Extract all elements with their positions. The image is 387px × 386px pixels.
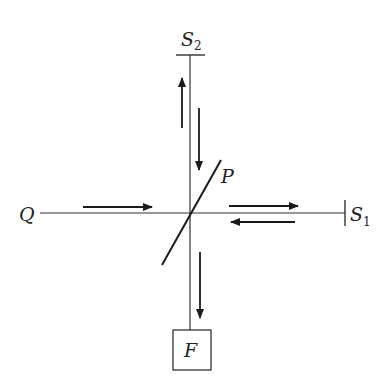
label-q: Q bbox=[19, 203, 35, 225]
interferometer-diagram: Q P S 2 S 1 F bbox=[0, 0, 387, 386]
label-s1-subscript: 1 bbox=[363, 215, 371, 229]
label-s2-subscript: 2 bbox=[194, 39, 202, 53]
label-p: P bbox=[220, 165, 235, 187]
label-s2: S bbox=[181, 28, 194, 50]
label-s1: S bbox=[350, 203, 363, 225]
label-f: F bbox=[183, 339, 198, 361]
